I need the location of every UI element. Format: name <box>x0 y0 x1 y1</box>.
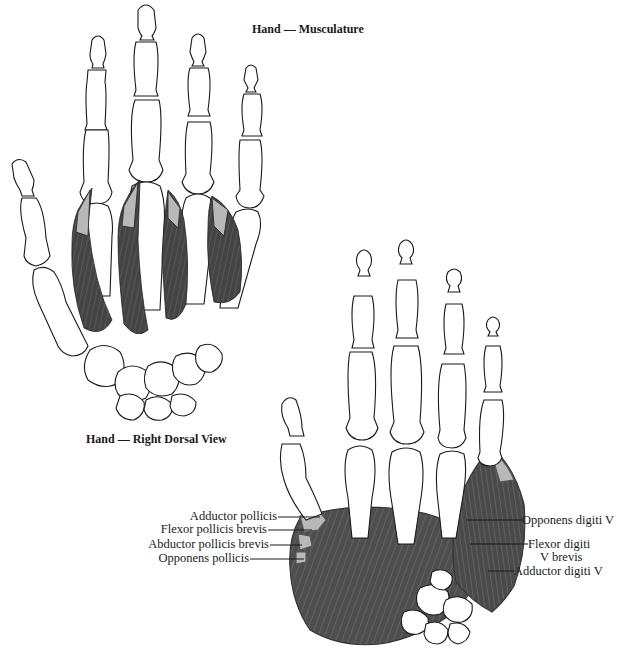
palmar-hand-drawing <box>280 240 524 645</box>
label-abductor-pollicis-brevis: Abductor pollicis brevis <box>148 537 269 551</box>
palmar-middle-finger <box>389 240 424 544</box>
label-flexor-digiti-v-brevis-line2: V brevis <box>540 550 582 564</box>
palmar-little-finger <box>478 317 504 466</box>
hand-illustration <box>0 0 627 662</box>
label-adductor-digiti-v: Adductor digiti V <box>514 564 603 578</box>
label-adductor-pollicis: Adductor pollicis <box>190 509 277 523</box>
palmar-thumb <box>280 398 322 520</box>
label-opponens-pollicis: Opponens pollicis <box>158 551 249 565</box>
figure-title: Hand — Musculature <box>252 22 364 37</box>
dorsal-hand-drawing <box>12 5 264 420</box>
dorsal-carpals <box>84 344 222 420</box>
dorsal-view-caption: Hand — Right Dorsal View <box>86 432 227 447</box>
illustration-page: Hand — Musculature Hand — Right Dorsal V… <box>0 0 627 662</box>
label-opponens-digiti-v: Opponens digiti V <box>522 513 614 527</box>
palmar-ring-finger <box>436 269 466 538</box>
label-flexor-digiti-v-brevis-line1: Flexor digiti <box>528 537 590 551</box>
label-flexor-pollicis-brevis: Flexor pollicis brevis <box>161 522 267 536</box>
palmar-index-finger <box>345 250 378 538</box>
